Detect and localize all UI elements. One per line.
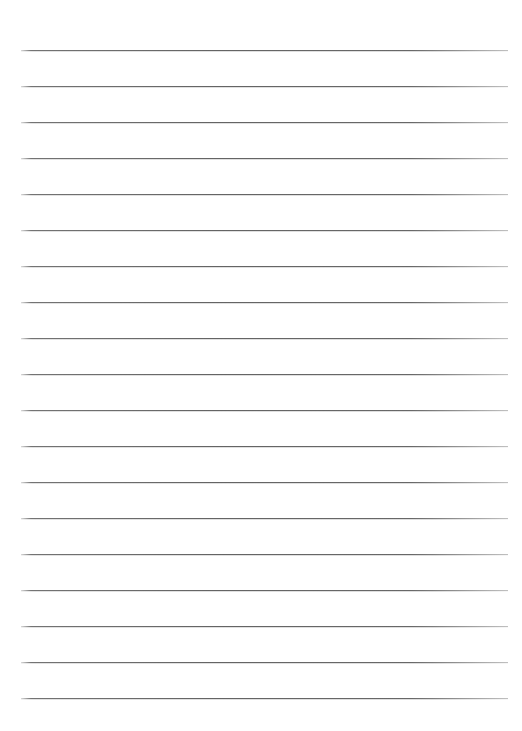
ruled-line: [21, 122, 508, 123]
ruled-line: [21, 410, 508, 411]
ruled-line: [21, 446, 508, 447]
ruled-line: [21, 50, 508, 51]
ruled-line: [21, 554, 508, 555]
ruled-line: [21, 86, 508, 87]
ruled-line: [21, 266, 508, 267]
ruled-line: [21, 338, 508, 339]
ruled-line: [21, 518, 508, 519]
ruled-line: [21, 662, 508, 663]
ruled-lines-area: [0, 0, 522, 731]
ruled-line: [21, 194, 508, 195]
ruled-line: [21, 374, 508, 375]
ruled-line: [21, 302, 508, 303]
ruled-line: [21, 626, 508, 627]
ruled-line: [21, 230, 508, 231]
lined-paper-page: [0, 0, 522, 731]
ruled-line: [21, 482, 508, 483]
ruled-line: [21, 590, 508, 591]
ruled-line: [21, 698, 508, 699]
ruled-line: [21, 158, 508, 159]
